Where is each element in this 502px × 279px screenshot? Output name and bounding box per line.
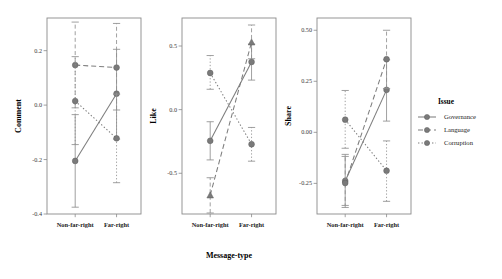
data-point-triangle [248,39,255,45]
series-line [345,90,386,181]
x-tick-label-0: Non-far-right [57,221,95,228]
data-point-circle [207,70,213,76]
x-tick-label-0: Non-far-right [192,221,230,228]
series-line [345,59,386,183]
x-tick-label-1: Far-right [374,221,400,228]
interaction-plot-figure: 0.20.0-0.2-0.4Non-far-rightFar-rightComm… [0,0,502,279]
panel-frame [317,18,411,214]
y-tick-label: 0.0 [34,101,42,108]
series-language [342,30,391,207]
legend-label-governance: Governance [444,113,476,120]
y-tick-label: 0.50 [301,26,312,33]
data-point-circle [114,135,120,141]
series-language [207,25,256,213]
y-tick-label: 0.00 [301,128,312,135]
y-tick-label: 0.25 [301,77,312,84]
data-point-triangle [207,192,214,198]
panel-frame [47,18,141,214]
y-axis-title-2: Share [284,106,293,126]
y-tick-label: -0.4 [32,210,42,217]
legend-label-language: Language [444,126,470,133]
series-governance [72,49,121,207]
data-point-circle [342,180,348,186]
data-point-circle [249,59,255,65]
data-point-circle [72,98,78,104]
figure-canvas: 0.20.0-0.2-0.4Non-far-rightFar-rightComm… [0,0,502,279]
data-point-circle [384,56,390,62]
series-corruption [72,57,121,183]
x-tick-label-1: Far-right [239,221,265,228]
series-governance [207,44,256,160]
y-tick-label: -0.2 [32,156,42,163]
data-point-circle [342,117,348,123]
series-corruption [342,90,391,201]
series-line [75,65,116,67]
y-tick-label: -0.25 [299,179,312,186]
data-point-circle [384,168,390,174]
data-point-circle [249,141,255,147]
legend-label-corruption: Corruption [444,139,474,146]
data-point-circle [114,65,120,71]
panel-like: 0.50.0-0.5Non-far-rightFar-rightLike [149,18,276,228]
data-point-circle [207,138,213,144]
x-tick-label-0: Non-far-right [327,221,365,228]
series-line [210,62,251,141]
series-line [75,101,116,138]
series-corruption [207,56,256,162]
y-tick-label: 0.5 [169,42,177,49]
y-tick-label: -0.5 [167,169,177,176]
legend-marker-governance [424,114,429,119]
y-tick-label: 0.0 [169,106,177,113]
x-tick-label-1: Far-right [104,221,130,228]
panel-comment: 0.20.0-0.2-0.4Non-far-rightFar-rightComm… [14,18,141,228]
series-line [210,73,251,144]
legend: IssueGovernanceLanguageCorruption [418,97,476,146]
legend-marker-corruption [424,140,429,145]
legend-title: Issue [438,97,455,106]
data-point-circle [72,158,78,164]
series-governance [342,60,391,206]
panel-share: 0.500.250.00-0.25Non-far-rightFar-rightS… [284,18,411,228]
series-language [72,22,121,110]
series-line [210,42,251,195]
panel-frame [182,18,276,214]
series-line [75,94,116,161]
y-axis-title-1: Like [149,108,158,124]
x-axis-title: Message-type [206,251,253,260]
y-tick-label: 0.2 [34,47,42,54]
legend-marker-language [424,127,429,132]
y-axis-title-0: Comment [14,99,23,133]
